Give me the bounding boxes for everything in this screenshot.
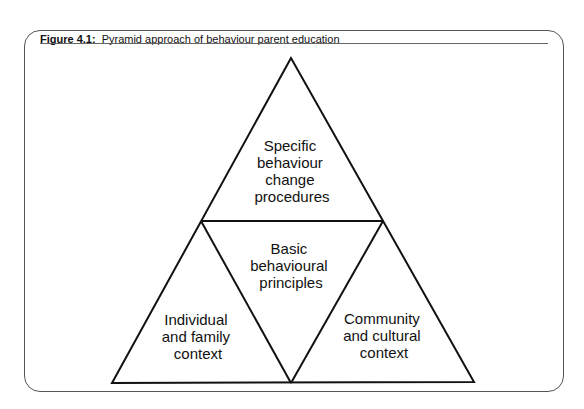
section-bottom-right: Community and cultural context: [343, 310, 425, 361]
section-middle: Basic behavioural principles: [250, 240, 332, 291]
section-bottom-left: Individual and family context: [162, 311, 235, 362]
section-top: Specific behaviour change procedures: [254, 137, 329, 205]
pyramid-diagram: Specific behaviour change procedures Bas…: [0, 0, 584, 409]
